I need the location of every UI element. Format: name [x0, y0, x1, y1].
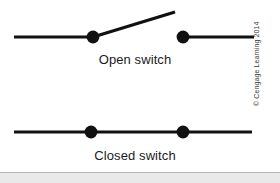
open-switch-pivot-terminal-icon — [87, 31, 100, 44]
closed-switch-caption: Closed switch — [55, 148, 215, 163]
open-switch-contact-terminal-icon — [177, 31, 190, 44]
open-switch-lever-arm — [93, 12, 175, 37]
closed-switch-contact-terminal-icon — [177, 126, 190, 139]
copyright-credit: © Cengage Learning 2014 — [252, 16, 266, 106]
closed-switch-pivot-terminal-icon — [85, 126, 98, 139]
bottom-edge-band — [0, 172, 280, 183]
open-switch-caption: Open switch — [55, 52, 215, 67]
switch-diagram-figure: Open switch Closed switch © Cengage Lear… — [0, 0, 280, 183]
open-switch-group — [14, 12, 254, 43]
closed-switch-group — [14, 126, 252, 139]
